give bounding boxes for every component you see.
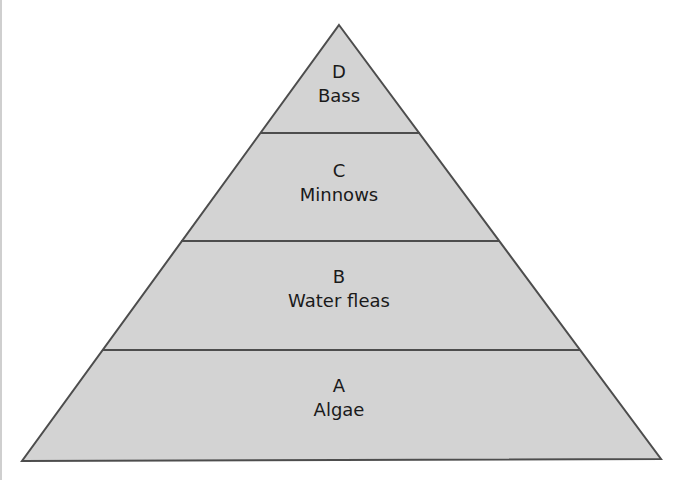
- level-b-label: B Water fleas: [288, 265, 390, 313]
- level-b-letter: B: [288, 265, 390, 289]
- level-d-label: D Bass: [318, 60, 360, 108]
- level-a-name: Algae: [314, 398, 365, 422]
- level-c-label: C Minnows: [300, 159, 378, 207]
- level-b-name: Water fleas: [288, 289, 390, 313]
- level-d-letter: D: [318, 60, 360, 84]
- level-c-letter: C: [300, 159, 378, 183]
- level-d-name: Bass: [318, 84, 360, 108]
- level-c-name: Minnows: [300, 183, 378, 207]
- level-a-letter: A: [314, 374, 365, 398]
- level-a-label: A Algae: [314, 374, 365, 422]
